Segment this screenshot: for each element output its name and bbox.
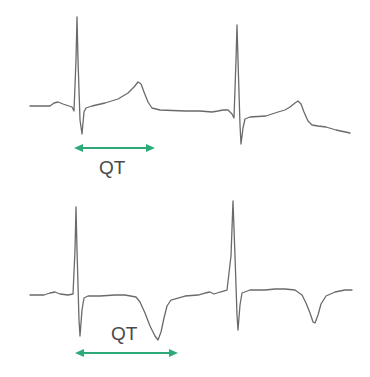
ecg-trace-normal (30, 17, 350, 144)
ecg-diagram: QT QT (0, 0, 370, 377)
arrow-left-icon (75, 349, 84, 357)
qt-label-inverted: QT (111, 323, 138, 344)
ecg-panel-inverted: QT (30, 201, 352, 357)
ecg-trace-inverted (30, 201, 352, 340)
ecg-panel-normal: QT (30, 17, 350, 178)
qt-arrow-normal (74, 144, 155, 152)
arrow-left-icon (74, 144, 83, 152)
qt-arrow-inverted (75, 349, 178, 357)
arrow-right-icon (169, 349, 178, 357)
qt-label-normal: QT (99, 157, 126, 178)
arrow-right-icon (146, 144, 155, 152)
